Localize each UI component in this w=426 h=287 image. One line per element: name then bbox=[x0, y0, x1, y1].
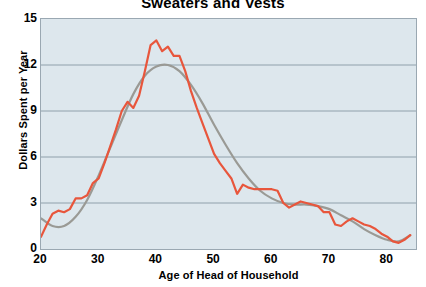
x-axis-tick-labels: 20304050607080 bbox=[0, 0, 426, 287]
x-tick-label: 70 bbox=[308, 252, 348, 266]
x-tick-label: 50 bbox=[193, 252, 233, 266]
x-tick-label: 30 bbox=[78, 252, 118, 266]
x-tick-label: 80 bbox=[366, 252, 406, 266]
x-tick-label: 60 bbox=[251, 252, 291, 266]
x-tick-label: 40 bbox=[135, 252, 175, 266]
x-axis-title: Age of Head of Household bbox=[40, 269, 417, 281]
chart-figure: Sweaters and Vests 03691215 Dollars Spen… bbox=[0, 0, 426, 287]
x-tick-label: 20 bbox=[20, 252, 60, 266]
